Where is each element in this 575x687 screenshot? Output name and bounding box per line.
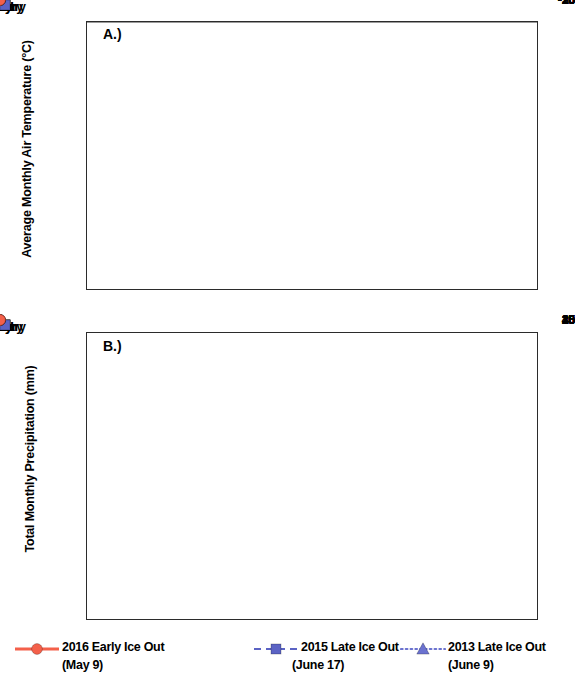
panel-a-temperature: Average Monthly Air Temperature (°C) A.)… [0, 0, 575, 320]
legend-key-square [253, 641, 299, 657]
panel-b-precipitation: Total Monthly Precipitation (mm) B.) 454… [0, 320, 575, 625]
legend-label: 2016 Early Ice Out [62, 640, 164, 654]
legend-key-circle [14, 641, 60, 657]
legend-label: 2013 Late Ice Out [448, 640, 546, 654]
legend-sublabel: (May 9) [62, 658, 103, 672]
chart-legend: 2016 Early Ice Out(May 9)2015 Late Ice O… [0, 640, 575, 687]
figure-container: Average Monthly Air Temperature (°C) A.)… [0, 0, 575, 687]
data-point-circle [32, 644, 43, 655]
data-point-square [271, 644, 281, 654]
legend-key-triangle [400, 641, 446, 657]
panel-a-series-layer [0, 0, 575, 320]
legend-sublabel: (June 9) [448, 658, 494, 672]
legend-label: 2015 Late Ice Out [301, 640, 399, 654]
legend-sublabel: (June 17) [292, 658, 344, 672]
panel-b-series-layer [0, 320, 575, 625]
